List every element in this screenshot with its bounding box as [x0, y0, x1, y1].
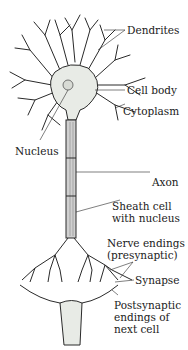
- neuron-diagram: [0, 0, 188, 350]
- label-dendrites: Dendrites: [127, 25, 179, 36]
- label-sheath-1: Sheath cell: [112, 201, 172, 212]
- label-nerve-1: Nerve endings: [107, 238, 185, 249]
- label-axon: Axon: [152, 177, 179, 188]
- label-post-3: next cell: [114, 324, 159, 335]
- label-nucleus: Nucleus: [15, 146, 59, 157]
- label-sheath-2: with nucleus: [112, 213, 180, 224]
- label-post-2: endings of: [114, 312, 169, 323]
- label-synapse: Synapse: [135, 275, 179, 286]
- label-post-1: Postsynaptic: [114, 300, 181, 311]
- nucleus-shape: [63, 80, 73, 90]
- label-nerve-2: (presynaptic): [107, 250, 178, 261]
- label-cytoplasm: Cytoplasm: [123, 106, 179, 117]
- label-cell-body: Cell body: [127, 85, 177, 96]
